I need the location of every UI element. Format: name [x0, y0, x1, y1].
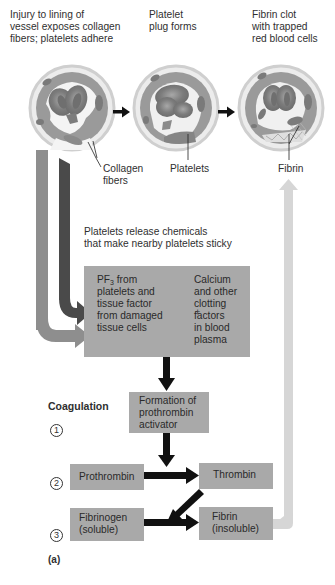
- stage-clot-label: Fibrin clot with trapped red blood cells: [252, 9, 318, 45]
- note-line: that make nearby platelets sticky: [84, 238, 232, 250]
- fibrinogen-box: Fibrinogen (soluble): [70, 508, 144, 541]
- factors-line: in blood: [194, 322, 237, 334]
- factors-line: from damaged: [97, 310, 163, 322]
- box-text: Formation of prothrombin activator: [139, 395, 196, 431]
- fibrin-callout: Fibrin: [278, 163, 303, 175]
- pf-suffix: from: [114, 274, 137, 285]
- label-line: red blood cells: [252, 33, 318, 45]
- callout-line: Platelets: [170, 163, 209, 175]
- factors-line: plasma: [194, 334, 237, 346]
- label-line: fibers; platelets adhere: [10, 33, 120, 45]
- factors-right-text: Calcium and other clotting factors in bl…: [194, 274, 237, 346]
- factors-line: platelets and: [97, 286, 163, 298]
- factors-line: and other: [194, 286, 237, 298]
- arrow-injury-to-plug: [113, 107, 130, 118]
- box-line: (soluble): [79, 524, 127, 536]
- box-line: Prothrombin: [79, 471, 135, 483]
- box-line: Fibrinogen: [79, 512, 127, 524]
- pf3-line: PF3 from: [97, 274, 163, 286]
- box-line: (insoluble): [212, 523, 259, 535]
- platelet-release-note: Platelets release chemicals that make ne…: [84, 226, 232, 250]
- step-2-marker: 2: [50, 477, 63, 490]
- vessel-clot-illustration: [239, 66, 323, 160]
- prothrombin-box: Prothrombin: [70, 464, 144, 490]
- box-text: Fibrinogen (soluble): [79, 512, 127, 536]
- box-text: Fibrin (insoluble): [212, 511, 259, 535]
- flow-arrows: [143, 357, 204, 531]
- panel-label: (a): [48, 554, 60, 566]
- callout-line: Collagen: [103, 163, 143, 175]
- fibrin-box: Fibrin (insoluble): [199, 507, 273, 540]
- factors-left-text: PF3 from platelets and tissue factor fro…: [97, 274, 163, 334]
- label-line: with trapped: [252, 21, 318, 33]
- collagen-fibers-callout: Collagen fibers: [103, 163, 143, 187]
- fibrin-return-arrow: [273, 179, 298, 529]
- box-line: prothrombin: [139, 407, 196, 419]
- callout-line: Fibrin: [278, 163, 303, 175]
- label-line: vessel exposes collagen: [10, 21, 120, 33]
- label-line: Injury to lining of: [10, 9, 120, 21]
- stage-plug-label: Platelet plug forms: [149, 9, 197, 33]
- prothrombin-activator-box: Formation of prothrombin activator: [129, 392, 209, 433]
- box-line: Fibrin: [212, 511, 259, 523]
- label-line: Fibrin clot: [252, 9, 318, 21]
- factors-line: tissue factor: [97, 298, 163, 310]
- clotting-factors-box: PF3 from platelets and tissue factor fro…: [84, 266, 250, 357]
- platelets-callout: Platelets: [170, 163, 209, 175]
- factors-line: tissue cells: [97, 322, 163, 334]
- note-line: Platelets release chemicals: [84, 226, 232, 238]
- vessel-plug-illustration: [134, 66, 218, 160]
- coagulation-heading: Coagulation: [48, 400, 109, 412]
- box-line: Formation of: [139, 395, 196, 407]
- factors-line: factors: [194, 310, 237, 322]
- box-line: activator: [139, 419, 196, 431]
- callout-line: fibers: [103, 175, 143, 187]
- factors-line: clotting: [194, 298, 237, 310]
- factors-line: Calcium: [194, 274, 237, 286]
- arrow-plug-to-clot: [218, 107, 235, 118]
- label-line: plug forms: [149, 21, 197, 33]
- step-1-marker: 1: [50, 424, 63, 437]
- box-line: Thrombin: [213, 469, 256, 481]
- pf-text: PF: [97, 274, 110, 285]
- step-3-marker: 3: [50, 529, 63, 542]
- thrombin-box: Thrombin: [199, 463, 273, 489]
- label-line: Platelet: [149, 9, 197, 21]
- stage-injury-label: Injury to lining of vessel exposes colla…: [10, 9, 120, 45]
